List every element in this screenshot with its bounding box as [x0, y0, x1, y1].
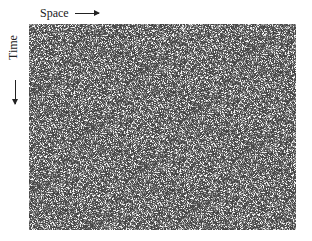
arrow-down-icon — [15, 80, 16, 104]
space-axis-label: Space — [40, 6, 99, 21]
space-label-text: Space — [40, 6, 69, 21]
spacetime-pattern — [29, 24, 296, 230]
arrow-right-icon — [75, 13, 99, 14]
time-label-text: Time — [6, 35, 21, 60]
time-axis-label: Time — [4, 40, 24, 110]
